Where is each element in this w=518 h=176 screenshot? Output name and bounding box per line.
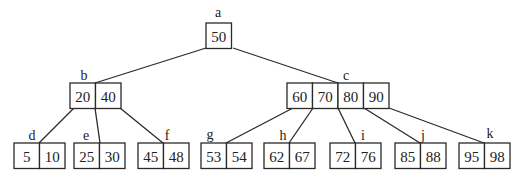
node-label: i <box>361 128 365 143</box>
key-value: 50 <box>211 29 226 45</box>
node-label: f <box>165 128 170 143</box>
node-e: e2530 <box>74 128 125 169</box>
key-value: 88 <box>426 149 441 165</box>
key-value: 95 <box>464 149 479 165</box>
node-label: a <box>215 5 222 20</box>
edge-c-k <box>389 108 484 143</box>
btree-diagram: a50b2040c60708090d510e2530f4548g5354h626… <box>0 0 518 176</box>
key-value: 54 <box>232 149 248 165</box>
node-c: c60708090 <box>287 68 389 109</box>
node-i: i7276 <box>330 128 381 169</box>
node-f: f4548 <box>138 128 189 169</box>
node-h: h6267 <box>264 128 315 169</box>
edge-b-e <box>95 108 100 143</box>
edge-c-j <box>364 108 420 143</box>
nodes-group: a50b2040c60708090d510e2530f4548g5354h626… <box>14 5 510 169</box>
key-value: 48 <box>169 149 184 165</box>
node-label: k <box>487 126 494 141</box>
key-value: 90 <box>369 89 384 105</box>
node-label: j <box>420 128 425 143</box>
node-label: h <box>280 128 287 143</box>
btree-svg: a50b2040c60708090d510e2530f4548g5354h626… <box>0 0 518 176</box>
edge-b-f <box>120 108 163 143</box>
node-label: e <box>83 128 89 143</box>
key-value: 67 <box>295 149 311 165</box>
key-value: 20 <box>75 89 90 105</box>
key-value: 72 <box>335 149 350 165</box>
node-j: j8588 <box>395 128 446 169</box>
key-value: 40 <box>101 89 116 105</box>
key-value: 62 <box>269 149 284 165</box>
edge-c-i <box>338 108 355 143</box>
key-value: 60 <box>292 89 307 105</box>
node-label: g <box>207 127 214 142</box>
key-value: 76 <box>361 149 377 165</box>
key-value: 5 <box>23 149 31 165</box>
key-value: 45 <box>143 149 158 165</box>
key-value: 25 <box>79 149 94 165</box>
edge-a-c <box>233 48 338 83</box>
edge-a-b <box>95 48 206 83</box>
key-value: 53 <box>206 149 221 165</box>
key-value: 10 <box>45 149 60 165</box>
key-value: 80 <box>343 89 358 105</box>
node-label: d <box>29 128 36 143</box>
key-value: 85 <box>400 149 415 165</box>
node-d: d510 <box>14 128 65 169</box>
node-a: a50 <box>206 5 232 49</box>
key-value: 70 <box>318 89 333 105</box>
node-label: b <box>81 68 88 83</box>
key-value: 98 <box>490 149 505 165</box>
node-b: b2040 <box>70 68 121 109</box>
node-k: k9598 <box>459 126 510 169</box>
edge-c-h <box>289 108 313 143</box>
key-value: 30 <box>105 149 120 165</box>
edge-b-d <box>39 108 74 143</box>
node-label: c <box>343 68 349 83</box>
